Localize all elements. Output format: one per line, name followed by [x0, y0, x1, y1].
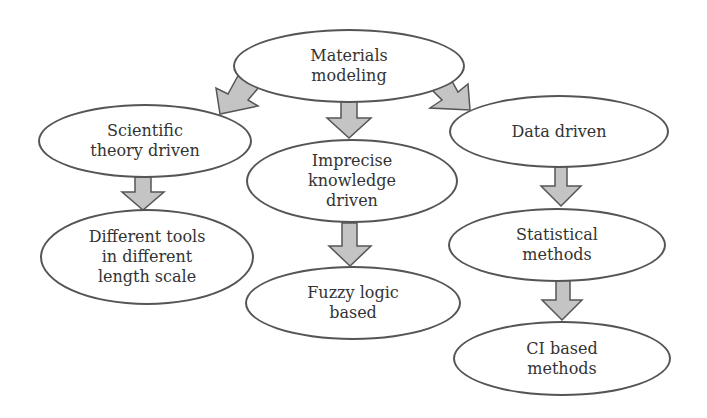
arrow-data-to-statistical	[541, 166, 581, 206]
node-label: CI based methods	[526, 339, 597, 379]
node-fuzzy-logic-based: Fuzzy logic based	[245, 266, 461, 340]
node-label: Statistical methods	[516, 225, 598, 265]
node-data-driven: Data driven	[449, 95, 669, 168]
node-label: Data driven	[511, 122, 606, 142]
node-materials-modeling: Materials modeling	[233, 29, 465, 103]
node-imprecise-knowledge-driven: Imprecise knowledge driven	[246, 139, 458, 223]
node-different-tools: Different tools in different length scal…	[40, 209, 254, 305]
node-scientific-theory-driven: Scientific theory driven	[38, 104, 252, 178]
arrow-statistical-to-ci	[542, 280, 582, 320]
node-statistical-methods: Statistical methods	[448, 208, 666, 282]
node-label: Materials modeling	[310, 46, 387, 86]
node-label: Different tools in different length scal…	[89, 227, 206, 287]
arrow-imprecise-to-fuzzy	[329, 223, 371, 266]
node-label: Imprecise knowledge driven	[308, 151, 396, 211]
arrow-scientific-to-tools	[122, 177, 164, 210]
arrow-root-to-imprecise	[327, 100, 371, 138]
node-label: Fuzzy logic based	[307, 283, 398, 323]
node-ci-based-methods: CI based methods	[453, 321, 671, 396]
node-label: Scientific theory driven	[90, 121, 199, 161]
